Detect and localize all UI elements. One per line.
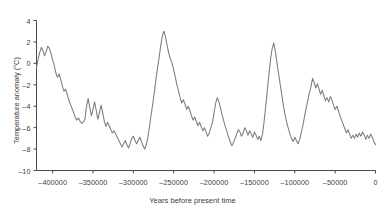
- temperature-anomaly-chart: 420–2–4–6–8–10 –400000–350000–300000–250…: [0, 0, 385, 214]
- x-tick-label: –300000: [119, 178, 148, 187]
- x-tick-label: –400000: [38, 178, 67, 187]
- x-tick-label: 0: [373, 178, 377, 187]
- chart-page: 420–2–4–6–8–10 –400000–350000–300000–250…: [0, 0, 385, 214]
- x-tick-label: –200000: [200, 178, 229, 187]
- y-axis-title: Temperature anomaly (°C): [12, 41, 21, 161]
- x-tick-label: –250000: [159, 178, 188, 187]
- y-tick-label: 4: [0, 16, 31, 25]
- x-tick-label: –50000: [323, 178, 348, 187]
- x-tick-label: –350000: [79, 178, 108, 187]
- y-tick-label: –10: [0, 166, 31, 175]
- x-tick-label: –150000: [240, 178, 269, 187]
- axes-group: [37, 21, 376, 171]
- x-axis-title: Years before present time: [0, 196, 385, 205]
- temperature-anomaly-line: [37, 31, 376, 149]
- x-tick-label: –100000: [280, 178, 309, 187]
